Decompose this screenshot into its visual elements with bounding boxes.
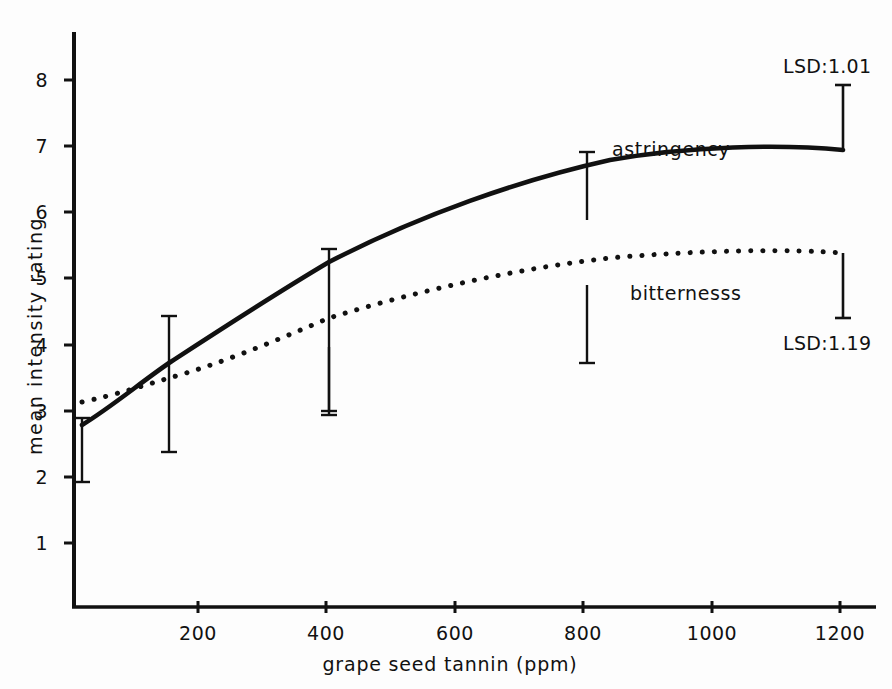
y-tick-label-8: 8 xyxy=(22,69,48,91)
x-tick-label-600: 600 xyxy=(436,622,474,644)
chart-plot-area xyxy=(0,0,892,689)
x-tick-label-1000: 1000 xyxy=(687,622,737,644)
chart-figure: 8 7 6 5 4 3 2 1 200 400 600 800 1000 120… xyxy=(0,0,892,689)
series-label-astringency: astringency xyxy=(612,138,730,160)
x-tick-label-200: 200 xyxy=(179,622,217,644)
bitterness-error-bars xyxy=(321,285,595,411)
bitterness-line xyxy=(82,251,843,402)
y-tick-label-2: 2 xyxy=(22,466,48,488)
y-tick-label-7: 7 xyxy=(22,135,48,157)
lsd-astringency-label: LSD:1.01 xyxy=(783,55,871,77)
y-tick-label-1: 1 xyxy=(22,532,48,554)
y-axis-title: mean intensity rating xyxy=(24,217,46,455)
lsd-bitterness-bar xyxy=(835,253,851,318)
lsd-bitterness-label: LSD:1.19 xyxy=(783,332,871,354)
series-label-bitterness: bitternesss xyxy=(630,282,741,304)
lsd-astringency-bar xyxy=(835,85,851,150)
axes xyxy=(72,32,876,607)
x-tick-label-800: 800 xyxy=(564,622,602,644)
x-tick-label-400: 400 xyxy=(307,622,345,644)
x-tick-label-1200: 1200 xyxy=(815,622,865,644)
x-axis-title: grape seed tannin (ppm) xyxy=(322,653,577,675)
